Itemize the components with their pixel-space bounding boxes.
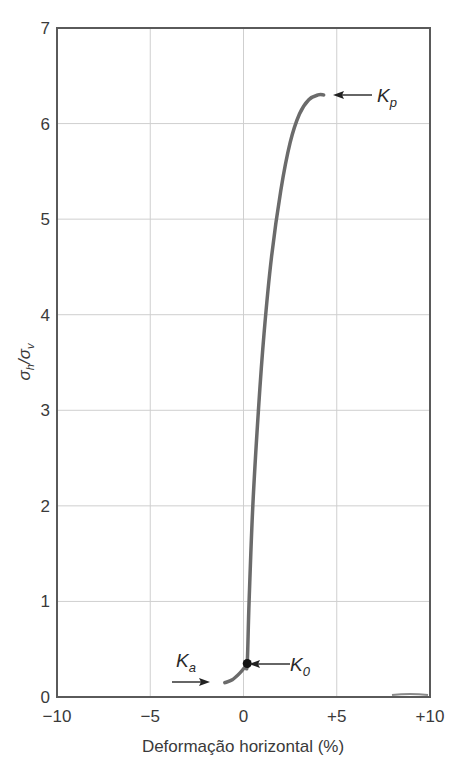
x-tick-label: +5 [327, 707, 346, 726]
x-tick-label: −10 [43, 707, 72, 726]
y-tick-label: 4 [41, 306, 50, 325]
y-tick-label: 7 [41, 19, 50, 38]
svg-text:K0: K0 [290, 654, 311, 679]
y-tick-label: 5 [41, 210, 50, 229]
y-tick-label: 0 [41, 688, 50, 707]
ka-annotation: Ka [172, 650, 210, 686]
x-tick-label: 0 [239, 707, 248, 726]
k0-annotation: K0 [249, 654, 311, 679]
x-tick-label: −5 [141, 707, 160, 726]
y-tick-label: 3 [41, 401, 50, 420]
baseline-artifact [392, 694, 428, 695]
y-tick-label: 2 [41, 497, 50, 516]
y-axis-tick-labels: 01234567 [41, 19, 50, 707]
grid-lines [57, 28, 430, 697]
y-tick-label: 6 [41, 115, 50, 134]
data-curve [225, 95, 324, 683]
chart: 01234567 −10−50+5+10 Deformação horizont… [0, 0, 451, 762]
x-axis-title: Deformação horizontal (%) [142, 737, 344, 756]
x-tick-label: +10 [416, 707, 445, 726]
y-tick-label: 1 [41, 592, 50, 611]
svg-text:Kp: Kp [377, 85, 397, 110]
y-axis-title: σh/σv [15, 342, 36, 380]
svg-text:Ka: Ka [176, 650, 196, 675]
kp-annotation: Kp [333, 85, 397, 110]
svg-text:σh/σv: σh/σv [15, 342, 36, 380]
x-axis-tick-labels: −10−50+5+10 [43, 707, 445, 726]
